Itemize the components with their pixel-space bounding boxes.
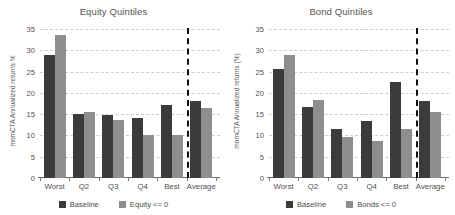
bar[interactable]	[284, 55, 295, 178]
plot-area-bond: 05101520253035WorstQ2Q3Q4BestAverage	[269, 29, 445, 178]
legend-equity: Baseline Equity <= 0	[0, 200, 227, 209]
legend-item-baseline: Baseline	[59, 200, 99, 209]
bar[interactable]	[143, 135, 154, 178]
x-axis-tickmark	[386, 178, 387, 181]
x-axis-tickmark	[416, 178, 417, 181]
chart-panel-bond: Bond Quintiles momCTA Annualized returns…	[227, 0, 455, 215]
average-separator-line	[187, 28, 189, 178]
x-axis-tick-label: Q2	[69, 182, 98, 191]
bar-groups: WorstQ2Q3Q4BestAverage	[269, 29, 445, 178]
legend-label: Bonds <= 0	[357, 200, 396, 209]
bar[interactable]	[113, 120, 124, 178]
y-axis-tick-label: 35	[256, 25, 264, 34]
y-axis-label-equity: momCTA Annualized returns %	[9, 27, 20, 175]
plot-area-equity: 05101520253035WorstQ2Q3Q4BestAverage	[40, 29, 216, 178]
y-axis-tick-label: 30	[27, 46, 35, 55]
bar[interactable]	[172, 135, 183, 178]
y-axis-tick-label: 25	[27, 67, 35, 76]
bar[interactable]	[342, 137, 353, 178]
legend-label: Equity <= 0	[130, 200, 168, 209]
y-axis-tick-label: 15	[256, 110, 264, 119]
y-axis-tick-label: 35	[27, 25, 35, 34]
bar-group-q3: Q3	[99, 29, 128, 178]
bar[interactable]	[132, 118, 143, 178]
bar[interactable]	[361, 121, 372, 178]
x-axis-tickmark	[216, 178, 217, 181]
bar[interactable]	[201, 108, 212, 178]
x-axis-tick-label: Q3	[328, 182, 357, 191]
bar[interactable]	[190, 101, 201, 178]
x-axis-tick-label: Best	[157, 182, 186, 191]
x-axis-tickmark	[357, 178, 358, 181]
x-axis-tick-label: Q2	[298, 182, 327, 191]
bar[interactable]	[419, 101, 430, 178]
x-axis-tick-label: Worst	[40, 182, 69, 191]
legend-label: Baseline	[70, 200, 99, 209]
y-axis-tick-label: 10	[27, 131, 35, 140]
bar-group-q4: Q4	[128, 29, 157, 178]
x-axis-tickmark	[269, 178, 270, 181]
bar[interactable]	[161, 105, 172, 178]
y-axis-tick-label: 20	[27, 88, 35, 97]
x-axis-tick-label: Average	[187, 182, 216, 191]
bar[interactable]	[73, 114, 84, 178]
bar[interactable]	[44, 55, 55, 178]
y-axis-tick-label: 0	[31, 174, 35, 183]
y-axis-tick-label: 10	[256, 131, 264, 140]
bar[interactable]	[273, 69, 284, 178]
x-axis-tickmark	[40, 178, 41, 181]
bar-group-worst: Worst	[269, 29, 298, 178]
bar-group-worst: Worst	[40, 29, 69, 178]
legend-swatch-icon	[59, 201, 66, 208]
y-axis-tick-label: 0	[260, 174, 264, 183]
bar-group-average: Average	[187, 29, 216, 178]
legend-label: Baseline	[297, 200, 326, 209]
x-axis-tick-label: Worst	[269, 182, 298, 191]
y-axis-tick-label: 20	[256, 88, 264, 97]
y-axis-tick-label: 5	[260, 152, 264, 161]
bar[interactable]	[430, 112, 441, 178]
bar-group-best: Best	[386, 29, 415, 178]
legend-swatch-icon	[119, 201, 126, 208]
average-separator-line	[416, 28, 418, 178]
legend-swatch-icon	[286, 201, 293, 208]
x-axis-tickmark	[157, 178, 158, 181]
chart-title-bond: Bond Quintiles	[227, 6, 455, 17]
bar-group-q2: Q2	[298, 29, 327, 178]
y-axis-label-bond: momCTA Annualized returns (%)	[233, 27, 244, 175]
x-axis-tickmark	[328, 178, 329, 181]
figure: Equity Quintiles momCTA Annualized retur…	[0, 0, 455, 215]
legend-item-equity-negative: Equity <= 0	[119, 200, 168, 209]
y-axis-tick-label: 30	[256, 46, 264, 55]
bar[interactable]	[55, 35, 66, 178]
legend-item-baseline: Baseline	[286, 200, 326, 209]
chart-title-equity: Equity Quintiles	[0, 6, 227, 17]
legend-bond: Baseline Bonds <= 0	[227, 200, 455, 209]
y-axis-tick-label: 15	[27, 110, 35, 119]
bar-group-q2: Q2	[69, 29, 98, 178]
x-axis-tick-label: Q4	[128, 182, 157, 191]
bar[interactable]	[401, 129, 412, 178]
x-axis-tick-label: Best	[386, 182, 415, 191]
x-axis-tickmark	[128, 178, 129, 181]
y-axis-tick-label: 25	[256, 67, 264, 76]
x-axis-tickmark	[298, 178, 299, 181]
bar[interactable]	[390, 82, 401, 178]
bar[interactable]	[313, 100, 324, 178]
x-axis-tick-label: Q4	[357, 182, 386, 191]
legend-swatch-icon	[346, 201, 353, 208]
bar-groups: WorstQ2Q3Q4BestAverage	[40, 29, 216, 178]
x-axis-tickmark	[99, 178, 100, 181]
bar[interactable]	[84, 112, 95, 178]
bar[interactable]	[372, 141, 383, 178]
x-axis-tickmark	[187, 178, 188, 181]
legend-item-bonds-negative: Bonds <= 0	[346, 200, 396, 209]
x-axis-tickmark	[445, 178, 446, 181]
y-axis-tick-label: 5	[31, 152, 35, 161]
bar[interactable]	[302, 107, 313, 178]
bar[interactable]	[102, 115, 113, 178]
x-axis-tick-label: Average	[416, 182, 445, 191]
bar-group-q3: Q3	[328, 29, 357, 178]
bar[interactable]	[331, 129, 342, 178]
x-axis-tick-label: Q3	[99, 182, 128, 191]
